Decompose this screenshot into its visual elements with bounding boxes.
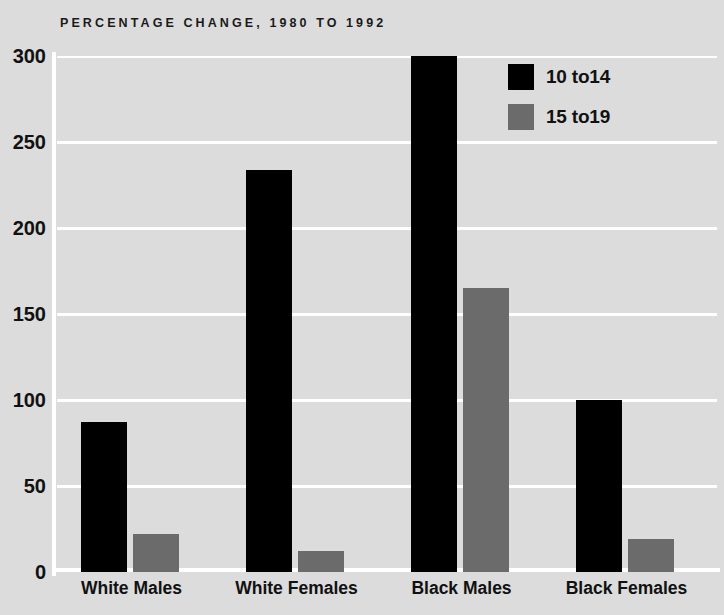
category-label-white-males: White Males [81,578,182,599]
gridline-200 [57,227,717,230]
bar-white-males-series-1[interactable] [133,534,179,572]
legend-item-0[interactable]: 10 to14 [508,64,610,90]
y-tick-label-200: 200 [13,218,46,238]
legend-item-1[interactable]: 15 to19 [508,104,610,130]
y-axis-tick-labels: 050100150200250300 [0,0,46,615]
gridline-150 [57,313,717,316]
plot-area [57,56,717,572]
legend-label-1: 15 to19 [546,106,610,128]
y-tick-label-50: 50 [24,476,46,496]
category-label-black-males: Black Males [411,578,511,599]
bar-white-females-series-1[interactable] [298,551,344,572]
chart-title: PERCENTAGE CHANGE, 1980 TO 1992 [60,16,386,30]
bar-black-males-series-0[interactable] [411,56,457,572]
y-tick-label-150: 150 [13,304,46,324]
legend: 10 to14 15 to19 [508,64,610,144]
bar-white-males-series-0[interactable] [81,422,127,572]
bar-black-females-series-0[interactable] [576,400,622,572]
y-tick-label-300: 300 [13,46,46,66]
y-tick-label-100: 100 [13,390,46,410]
y-axis-line [52,52,56,576]
legend-label-0: 10 to14 [546,66,610,88]
y-tick-label-250: 250 [13,132,46,152]
bar-black-females-series-1[interactable] [628,539,674,572]
bar-black-males-series-1[interactable] [463,288,509,572]
gridline-250 [57,141,717,144]
legend-swatch-icon-0 [508,64,534,90]
bar-chart: PERCENTAGE CHANGE, 1980 TO 1992 05010015… [0,0,724,615]
legend-swatch-icon-1 [508,104,534,130]
category-label-black-females: Black Females [566,578,688,599]
y-tick-label-0: 0 [35,562,46,582]
gridline-300 [57,56,717,58]
category-label-white-females: White Females [235,578,358,599]
bar-white-females-series-0[interactable] [246,170,292,572]
